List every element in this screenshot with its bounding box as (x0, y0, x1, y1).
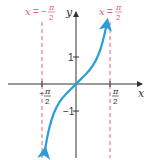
svg-text:2: 2 (49, 13, 54, 22)
y-tick-label-neg1: −1 (63, 106, 75, 117)
svg-text:−: − (41, 6, 47, 17)
asymptote-right-label: x = π 2 (99, 3, 122, 22)
tangent-graph: x = − π 2 x = π 2 y x 1 −1 − π 2 π 2 (0, 0, 152, 160)
x-axis-label: x (138, 87, 145, 100)
svg-text:π: π (44, 87, 51, 96)
y-tick-label-1: 1 (68, 52, 74, 63)
svg-text:2: 2 (45, 97, 50, 106)
x-tick-label-pi-2: π 2 (112, 87, 119, 106)
svg-text:2: 2 (116, 13, 121, 22)
svg-text:2: 2 (113, 97, 118, 106)
svg-text:x: x (99, 6, 105, 17)
svg-text:x: x (25, 6, 31, 17)
svg-text:−: − (39, 88, 44, 98)
asymptote-left-label: x = − π 2 (25, 3, 55, 22)
svg-text:π: π (115, 3, 122, 12)
svg-text:=: = (107, 6, 113, 17)
svg-text:π: π (112, 87, 119, 96)
y-axis-label: y (65, 6, 73, 19)
svg-text:=: = (33, 6, 39, 17)
svg-text:π: π (48, 3, 55, 12)
x-tick-label-neg-pi-2: − π 2 (39, 87, 51, 106)
